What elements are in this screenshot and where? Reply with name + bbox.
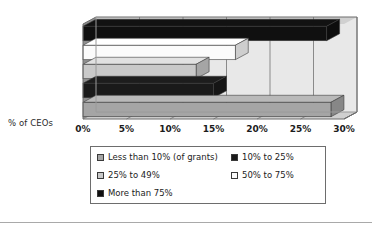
legend-swatch-icon [97, 172, 104, 179]
bar-chart-graphic [0, 0, 372, 146]
legend-swatch-icon [231, 172, 238, 179]
x-tick-label: 15% [203, 124, 225, 134]
bar [83, 95, 344, 116]
bar-top-face [83, 57, 209, 64]
page-divider [0, 222, 372, 223]
bar-top-face [83, 95, 344, 102]
x-tick-label: 10% [159, 124, 181, 134]
legend-swatch-icon [97, 190, 104, 197]
axis-title-percent-of-ceos: % of CEOs [8, 118, 53, 128]
legend-swatch-icon [97, 154, 104, 161]
bar-top-face [83, 76, 227, 83]
legend-label: Less than 10% (of grants) [108, 152, 218, 162]
bar [83, 19, 340, 40]
legend-item[interactable]: Less than 10% (of grants) [97, 152, 218, 162]
bar [83, 76, 227, 97]
x-tick-label: 25% [290, 124, 312, 134]
legend-item[interactable]: More than 75% [97, 188, 173, 198]
bar [83, 38, 248, 59]
legend-item[interactable]: 50% to 75% [231, 170, 294, 180]
bar [83, 57, 209, 78]
bar-front-face [83, 102, 331, 116]
legend-label: More than 75% [108, 188, 173, 198]
legend-item[interactable]: 10% to 25% [231, 152, 294, 162]
legend-grid: Less than 10% (of grants)10% to 25%25% t… [91, 147, 325, 203]
legend-label: 50% to 75% [242, 170, 294, 180]
x-tick-label: 20% [246, 124, 268, 134]
legend-swatch-icon [231, 154, 238, 161]
x-tick-label: 0% [75, 124, 90, 134]
chart-container: % of CEOs 0%5%10%15%20%25%30% Less than … [0, 0, 372, 230]
bar-top-face [83, 38, 248, 45]
legend-label: 10% to 25% [242, 152, 294, 162]
x-tick-label: 5% [119, 124, 134, 134]
legend-label: 25% to 49% [108, 170, 160, 180]
bar-top-face [83, 19, 340, 26]
x-tick-label: 30% [333, 124, 355, 134]
legend-item[interactable]: 25% to 49% [97, 170, 160, 180]
chart-legend: Less than 10% (of grants)10% to 25%25% t… [90, 146, 326, 204]
